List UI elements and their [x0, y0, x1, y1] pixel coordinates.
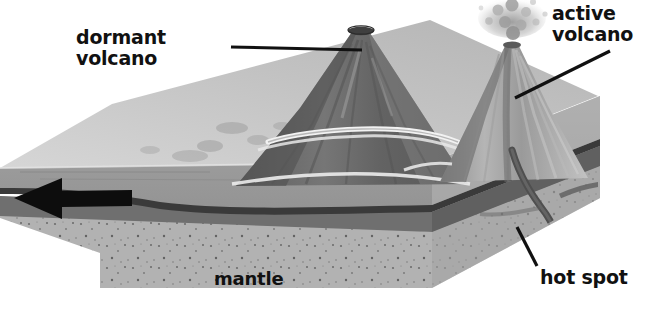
active-crater [503, 42, 521, 49]
hot-spot-label: hot spot [540, 267, 628, 288]
active-volcano-label: active volcano [552, 3, 633, 45]
dormant-volcano-label: dormant volcano [76, 27, 166, 69]
active-volcano-throat [506, 48, 508, 182]
eruption-plume [478, 0, 548, 40]
figure-canvas: dormant volcano active volcano hot spot … [0, 0, 656, 315]
mantle-label: mantle [214, 268, 284, 289]
